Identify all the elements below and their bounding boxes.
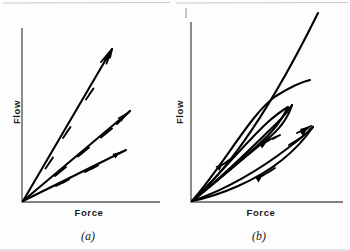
panel-b-steep-exit-branch bbox=[192, 13, 318, 201]
panel-a-caption: (a) bbox=[81, 229, 95, 243]
figure-canvas: Flow Force (a) bbox=[0, 0, 350, 251]
panel-b: Flow Force (b) bbox=[174, 13, 343, 243]
panel-a-xlabel: Force bbox=[75, 207, 104, 218]
panel-a-ylabel: Flow bbox=[11, 100, 22, 124]
panel-b-caption: (b) bbox=[252, 229, 266, 243]
panel-a: Flow Force (a) bbox=[11, 28, 160, 243]
scan-artifacts bbox=[0, 3, 350, 251]
panel-b-xlabel: Force bbox=[247, 207, 276, 218]
panel-b-axes bbox=[191, 22, 343, 202]
panel-b-upper-loop bbox=[192, 107, 288, 201]
panel-a-axes bbox=[22, 28, 160, 202]
panel-b-ylabel: Flow bbox=[174, 100, 185, 124]
figure-root: Flow Force (a) bbox=[0, 0, 350, 251]
